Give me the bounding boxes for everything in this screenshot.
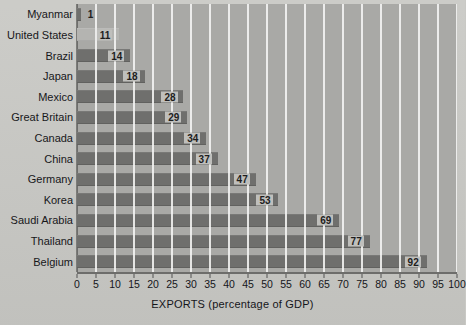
bar-korea xyxy=(77,193,278,206)
bar-value-label: 92 xyxy=(405,256,421,267)
bar-row: 29 xyxy=(77,111,457,124)
x-axis-title: EXPORTS (percentage of GDP) xyxy=(0,298,465,310)
bar-row: 11 xyxy=(77,28,457,41)
category-axis-labels: MyanmarUnited StatesBrazilJapanMexicoGre… xyxy=(0,4,73,272)
bar-value-label: 37 xyxy=(196,153,212,164)
bar-row: 77 xyxy=(77,235,457,248)
tick-label-45: 45 xyxy=(242,278,254,290)
bar-gridline-overlay xyxy=(77,214,339,227)
bar-gridline-overlay xyxy=(77,255,427,268)
tick-label-95: 95 xyxy=(432,278,444,290)
bar-myanmar xyxy=(77,8,81,21)
tick-label-20: 20 xyxy=(147,278,159,290)
bar-row: 28 xyxy=(77,90,457,103)
bar-value-label: 47 xyxy=(234,174,250,185)
bar-gridline-overlay xyxy=(77,193,278,206)
category-label-saudi-arabia: Saudi Arabia xyxy=(11,214,73,226)
tick-label-85: 85 xyxy=(394,278,406,290)
tick-label-90: 90 xyxy=(413,278,425,290)
bar-row: 92 xyxy=(77,255,457,268)
bar-thailand xyxy=(77,235,370,248)
bar-germany xyxy=(77,173,256,186)
tick-label-75: 75 xyxy=(356,278,368,290)
category-label-china: China xyxy=(44,153,73,165)
tick-label-65: 65 xyxy=(318,278,330,290)
bar-value-label: 77 xyxy=(348,236,364,247)
tick-label-40: 40 xyxy=(223,278,235,290)
tick-label-10: 10 xyxy=(109,278,121,290)
bar-saudi-arabia xyxy=(77,214,339,227)
category-label-united-states: United States xyxy=(7,29,73,41)
category-label-brazil: Brazil xyxy=(45,50,73,62)
bar-value-label: 18 xyxy=(123,71,139,82)
bar-row: 69 xyxy=(77,214,457,227)
bar-belgium xyxy=(77,255,427,268)
tick-label-55: 55 xyxy=(280,278,292,290)
bar-value-label: 1 xyxy=(85,9,96,20)
category-label-germany: Germany xyxy=(28,173,73,185)
x-axis-tick-labels: 0510152025303540455055606570758085909510… xyxy=(0,278,465,292)
tick-label-5: 5 xyxy=(93,278,99,290)
tick-label-30: 30 xyxy=(185,278,197,290)
bar-rows: 1111418282934374753697792 xyxy=(77,4,457,272)
category-label-mexico: Mexico xyxy=(38,91,73,103)
tick-label-50: 50 xyxy=(261,278,273,290)
tick-label-70: 70 xyxy=(337,278,349,290)
bar-gridline-overlay xyxy=(77,235,370,248)
bar-row: 1 xyxy=(77,8,457,21)
bar-value-label: 11 xyxy=(97,29,113,40)
category-label-thailand: Thailand xyxy=(31,235,73,247)
bar-value-label: 69 xyxy=(317,215,333,226)
category-label-belgium: Belgium xyxy=(33,256,73,268)
tick-label-100: 100 xyxy=(448,278,466,290)
tick-label-80: 80 xyxy=(375,278,387,290)
bar-row: 18 xyxy=(77,70,457,83)
bar-row: 14 xyxy=(77,49,457,62)
bar-row: 37 xyxy=(77,152,457,165)
tick-label-35: 35 xyxy=(204,278,216,290)
bar-row: 53 xyxy=(77,193,457,206)
tick-label-60: 60 xyxy=(299,278,311,290)
bar-row: 47 xyxy=(77,173,457,186)
tick-label-15: 15 xyxy=(128,278,140,290)
tick-label-0: 0 xyxy=(74,278,80,290)
bar-gridline-overlay xyxy=(77,8,81,21)
category-label-canada: Canada xyxy=(34,132,73,144)
category-label-myanmar: Myanmar xyxy=(27,8,73,20)
category-label-great-britain: Great Britain xyxy=(11,111,73,123)
bar-value-label: 29 xyxy=(165,112,181,123)
bar-value-label: 34 xyxy=(184,133,200,144)
category-label-japan: Japan xyxy=(43,70,73,82)
tick-label-25: 25 xyxy=(166,278,178,290)
bar-value-label: 14 xyxy=(108,50,124,61)
plot-area: 1111418282934374753697792 xyxy=(77,4,457,272)
bar-value-label: 28 xyxy=(161,91,177,102)
bar-gridline-overlay xyxy=(77,173,256,186)
category-label-korea: Korea xyxy=(44,194,73,206)
bar-value-label: 53 xyxy=(256,194,272,205)
bar-row: 34 xyxy=(77,132,457,145)
